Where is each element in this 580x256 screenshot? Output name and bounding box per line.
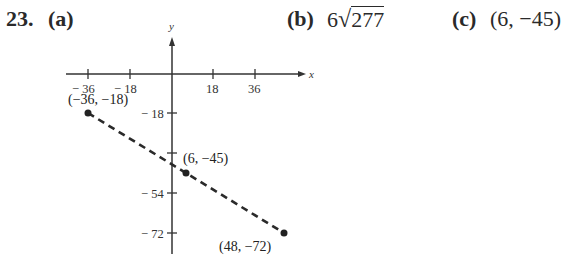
point-marker (85, 110, 92, 117)
point-marker (183, 170, 190, 177)
y-axis-arrow-icon (169, 37, 175, 46)
x-axis-label: x (308, 68, 314, 80)
y-tick-label: − 72 (141, 227, 164, 241)
y-tick-label: − 18 (141, 107, 164, 121)
point-label: (6, −45) (183, 151, 229, 167)
x-axis-arrow-icon (298, 71, 306, 77)
x-tick-label: 18 (206, 82, 219, 96)
point-label: (−36, −18) (68, 92, 128, 108)
point-marker (281, 230, 288, 237)
y-tick-label: − 54 (141, 187, 164, 201)
point-label: (48, −72) (219, 239, 272, 255)
coordinate-plot: x y − 36 − 18 18 36 − 18 − 54 − 72 (−36,… (0, 0, 580, 256)
x-tick-label: 36 (248, 82, 261, 96)
y-axis-label: y (168, 20, 174, 32)
